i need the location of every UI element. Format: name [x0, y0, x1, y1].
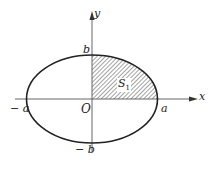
y-axis-label: y — [94, 8, 100, 19]
ellipse-diagram — [0, 0, 212, 170]
origin-label: O — [81, 103, 91, 115]
region-label-s1: S1 — [117, 78, 131, 92]
label-neg-a: − a — [10, 103, 29, 114]
region-label-subscript: 1 — [126, 84, 130, 92]
x-axis-arrow-icon — [189, 97, 198, 102]
region-label-main: S — [118, 77, 126, 90]
label-b: b — [83, 44, 90, 55]
diagram-canvas: y x b − b − a a O S1 — [0, 0, 212, 170]
label-neg-b: − b — [75, 144, 95, 155]
label-a: a — [161, 103, 168, 114]
x-axis-label: x — [199, 91, 205, 102]
